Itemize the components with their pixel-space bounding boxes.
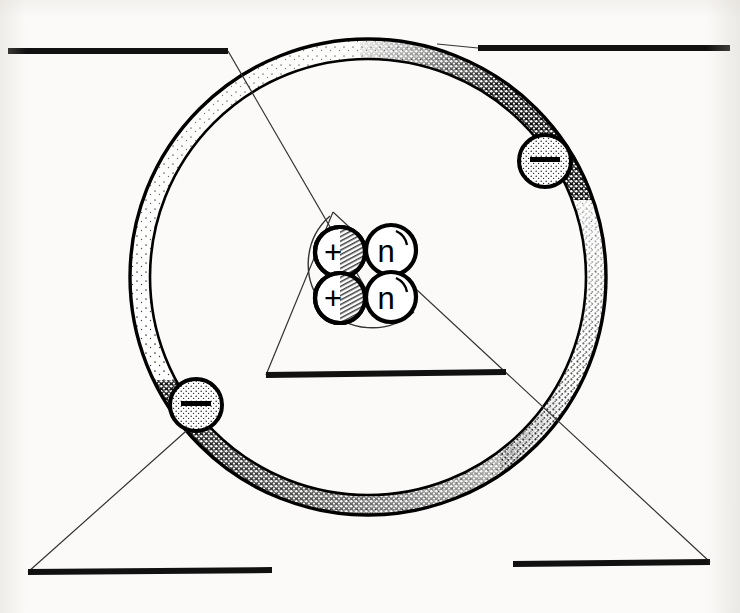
proton-symbol: + bbox=[324, 235, 342, 270]
nucleus-group: + n + n bbox=[308, 216, 416, 328]
electron-upper-right bbox=[519, 135, 571, 187]
neutron-particle: n bbox=[366, 225, 416, 275]
diagram-svg: + n + n bbox=[0, 0, 740, 613]
leader-bottom-left-to-electron bbox=[28, 424, 194, 572]
electron-lower-left bbox=[170, 379, 222, 431]
leader-top-left-to-nucleus bbox=[228, 51, 384, 320]
proton-particle: + bbox=[315, 227, 365, 277]
atom-diagram-canvas: + n + n bbox=[0, 0, 740, 613]
label-line-middle[interactable] bbox=[266, 372, 506, 375]
electron-minus-sign bbox=[181, 401, 211, 406]
neutron-symbol: n bbox=[377, 234, 394, 269]
proton-symbol: + bbox=[324, 281, 342, 316]
label-line-bottom-right[interactable] bbox=[513, 562, 710, 564]
leader-top-right-to-orbit bbox=[437, 44, 478, 48]
electron-minus-sign bbox=[530, 157, 560, 162]
label-line-bottom-left[interactable] bbox=[28, 570, 272, 572]
electron-orbit-shell bbox=[105, 20, 740, 540]
neutron-symbol: n bbox=[377, 281, 394, 316]
proton-particle: + bbox=[315, 273, 365, 323]
neutron-particle: n bbox=[366, 272, 416, 322]
